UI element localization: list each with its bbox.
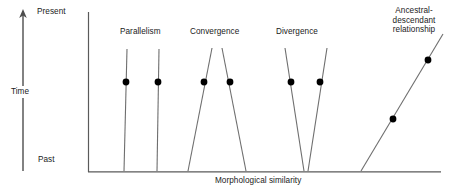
taxon-dot-divergence-1 <box>317 79 324 86</box>
taxon-dot-parallelism-1 <box>155 79 162 86</box>
taxon-dot-ancestral-descendant-0 <box>425 57 432 64</box>
lineage-line-convergence-1 <box>222 48 246 171</box>
lineage-group-convergence <box>188 48 246 171</box>
taxon-dot-ancestral-descendant-1 <box>390 116 397 123</box>
lineage-group-ancestral-descendant <box>361 34 443 171</box>
group-label-divergence: Divergence <box>276 27 318 37</box>
lineage-line-parallelism-0 <box>124 49 127 171</box>
taxon-dot-convergence-0 <box>201 79 208 86</box>
past-label: Past <box>38 155 55 165</box>
lineage-line-divergence-0 <box>285 48 304 171</box>
time-axis-label: Time <box>9 86 31 98</box>
lineage-group-parallelism <box>123 49 162 171</box>
present-label: Present <box>37 7 66 17</box>
lineage-line-parallelism-1 <box>157 49 159 171</box>
lineage-group-container <box>123 34 443 171</box>
lineage-line-convergence-0 <box>188 48 212 171</box>
evolutionary-patterns-figure: Present Time Past Morphological similari… <box>0 0 450 189</box>
taxon-dot-divergence-0 <box>288 79 295 86</box>
group-label-ancestral-descendant: Ancestral- descendant relationship <box>378 6 450 35</box>
lineage-group-divergence <box>285 48 327 171</box>
taxon-dot-parallelism-0 <box>123 79 130 86</box>
lineage-line-ancestral-descendant-0 <box>361 34 443 171</box>
taxon-dot-convergence-1 <box>227 79 234 86</box>
lineage-line-divergence-1 <box>308 48 327 171</box>
group-label-parallelism: Parallelism <box>120 27 161 37</box>
x-axis-title: Morphological similarity <box>215 176 301 186</box>
group-label-convergence: Convergence <box>190 27 239 37</box>
